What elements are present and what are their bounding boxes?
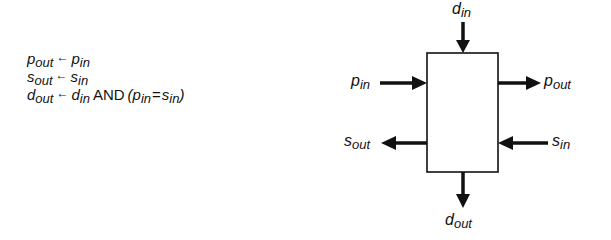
var-sub: in (461, 5, 471, 20)
var-sub: out (454, 216, 472, 231)
p-in-arrow-icon (380, 76, 427, 90)
label-s-in: sin (552, 133, 570, 150)
block-diagram (0, 0, 611, 240)
var-base: s (552, 132, 560, 149)
var-base: d (452, 0, 461, 17)
var-base: p (351, 72, 360, 89)
var-sub: in (360, 77, 370, 92)
s-in-arrow-icon (498, 136, 548, 150)
var-sub: out (553, 77, 571, 92)
var-sub: out (352, 137, 370, 152)
label-d-in: din (452, 1, 471, 18)
label-d-out: dout (445, 212, 472, 229)
label-p-in: pin (351, 73, 370, 90)
d-in-arrow-icon (456, 22, 470, 53)
processing-box (427, 53, 498, 172)
var-base: p (544, 72, 553, 89)
var-base: s (344, 132, 352, 149)
p-out-arrow-icon (498, 76, 541, 90)
var-sub: in (560, 137, 570, 152)
label-s-out: sout (344, 133, 370, 150)
d-out-arrow-icon (456, 172, 470, 208)
var-base: d (445, 211, 454, 228)
s-out-arrow-icon (381, 136, 427, 150)
label-p-out: pout (544, 73, 571, 90)
